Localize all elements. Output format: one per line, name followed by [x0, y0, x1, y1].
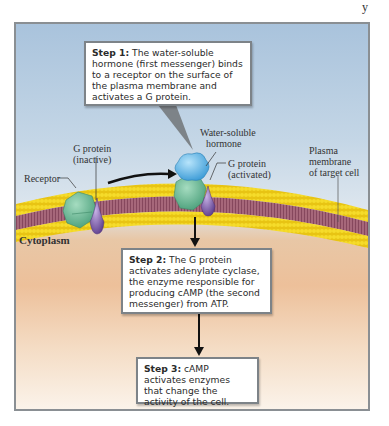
activation-arrow [108, 174, 170, 183]
step3-label: Step 3: [144, 363, 181, 374]
step1-callout-pointer [158, 105, 193, 150]
label-g-protein-inactive-l1: G protein [73, 143, 111, 154]
label-hormone-l2: hormone [200, 138, 256, 149]
label-g-protein-inactive: G protein (inactive) [73, 143, 111, 165]
label-receptor: Receptor [24, 173, 60, 184]
label-plasma-membrane: Plasma membrane of target cell [309, 145, 359, 178]
label-g-protein-activated-l2: (activated) [228, 169, 271, 180]
label-g-protein-inactive-l2: (inactive) [73, 154, 111, 165]
label-plasma-membrane-l2: membrane [309, 156, 359, 167]
step2-label: Step 2: [129, 254, 166, 265]
label-plasma-membrane-l3: of target cell [309, 167, 359, 178]
label-cytoplasm: Cytoplasm [19, 235, 70, 246]
label-g-protein-activated: G protein (activated) [228, 158, 271, 180]
step1-callout: Step 1: The water-soluble hormone (first… [84, 41, 252, 106]
label-plasma-membrane-l1: Plasma [309, 145, 359, 156]
step2-box: Step 2: The G protein activates adenylat… [121, 248, 272, 314]
hormone-icon [175, 153, 209, 181]
step1-label: Step 1: [92, 47, 129, 58]
label-g-protein-activated-l1: G protein [228, 158, 271, 169]
label-hormone: Water-soluble hormone [200, 127, 256, 149]
label-hormone-l1: Water-soluble [200, 127, 256, 138]
step3-box: Step 3: cAMP activates enzymes that chan… [136, 357, 259, 404]
